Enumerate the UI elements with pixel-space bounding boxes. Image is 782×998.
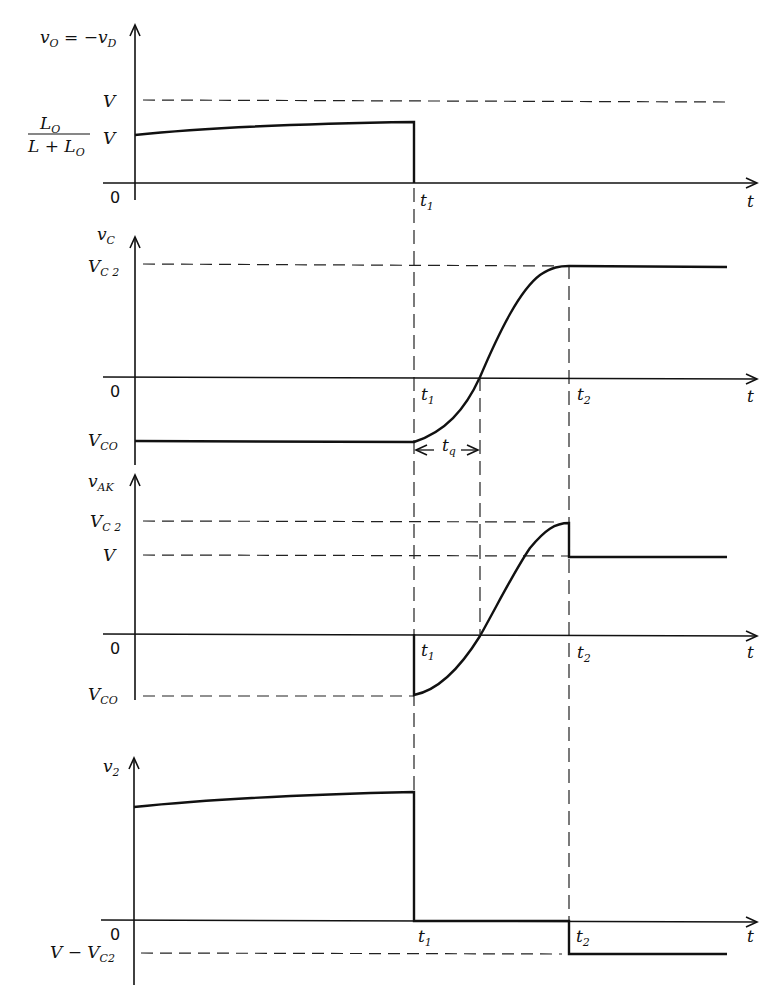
level-VC2-label: VC 2 bbox=[88, 256, 119, 279]
t-axis-label: t bbox=[747, 191, 754, 211]
v2-signal bbox=[134, 792, 727, 954]
panel-v2: v2 0 V − VC2 t1 t2 t bbox=[50, 756, 757, 985]
panel-vc: vC VC 2 0 VCO t1 t2 t tq bbox=[88, 224, 757, 465]
x-axis bbox=[103, 634, 757, 636]
level-VCO-label: VCO bbox=[88, 684, 118, 707]
y-axis-label: v2 bbox=[103, 756, 120, 779]
panel-vak: vAK VC 2 V 0 VCO t1 t2 t bbox=[88, 471, 757, 707]
fraction-denominator: L + LO bbox=[27, 136, 85, 159]
t1-label: t1 bbox=[421, 384, 435, 407]
level-VC2-dashed bbox=[143, 264, 560, 266]
vak-signal bbox=[414, 523, 727, 695]
t-axis-label: t bbox=[747, 926, 754, 946]
t2-label: t2 bbox=[577, 642, 591, 665]
vc-signal bbox=[135, 266, 727, 442]
level-V-minus-VC2-dashed bbox=[141, 953, 562, 954]
level-V-minus-VC2-label: V − VC2 bbox=[50, 942, 115, 965]
level-VC2-dashed bbox=[143, 521, 560, 522]
waveform-diagram: vO = −vD V LO L + LO V 0 t1 t vC VC 2 0 … bbox=[0, 0, 782, 998]
fraction-numerator: LO bbox=[39, 113, 60, 136]
t2-label: t2 bbox=[576, 926, 590, 949]
t-axis-label: t bbox=[747, 386, 754, 406]
t1-label: t1 bbox=[418, 926, 432, 949]
tq-label: tq bbox=[442, 435, 456, 458]
zero-label: 0 bbox=[110, 188, 120, 207]
level-V-label: V bbox=[103, 545, 117, 565]
fraction-V-label: V bbox=[103, 128, 117, 148]
zero-label: 0 bbox=[110, 639, 120, 658]
level-VCO-label: VCO bbox=[88, 430, 118, 453]
t1-label: t1 bbox=[421, 640, 435, 663]
level-V-dashed bbox=[143, 100, 727, 102]
panel-vo: vO = −vD V LO L + LO V 0 t1 t bbox=[27, 25, 757, 213]
level-VC2-label: VC 2 bbox=[90, 511, 121, 534]
x-axis bbox=[103, 377, 757, 379]
t2-label: t2 bbox=[577, 384, 591, 407]
vo-signal bbox=[135, 122, 414, 183]
zero-label: 0 bbox=[110, 382, 120, 401]
level-V-dashed bbox=[143, 555, 569, 556]
t1-label: t1 bbox=[420, 190, 434, 213]
zero-label: 0 bbox=[110, 925, 120, 944]
y-axis-label: vO = −vD bbox=[40, 27, 117, 50]
t-axis-label: t bbox=[747, 642, 754, 662]
level-V-label: V bbox=[103, 91, 117, 111]
y-axis-label: vC bbox=[97, 224, 116, 247]
y-axis-label: vAK bbox=[88, 471, 115, 494]
